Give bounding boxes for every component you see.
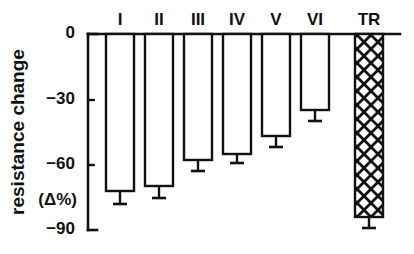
y-axis-tick-labels: 0 −30 −60 (Δ%) −90: [38, 23, 77, 238]
category-label-4: IV: [229, 10, 246, 29]
bar-5: [262, 34, 290, 136]
category-label-1: I: [118, 10, 123, 29]
category-label-7: TR: [358, 10, 381, 29]
y-tick-label-minus90: −90: [46, 219, 75, 238]
category-label-3: III: [191, 10, 205, 29]
bar-6: [301, 34, 329, 110]
y-tick-label-0: 0: [66, 23, 75, 42]
y-axis-title-group: resistance change: [7, 49, 28, 215]
bar-4: [223, 34, 251, 154]
y-tick-label-minus60: −60: [46, 154, 75, 173]
y-axis-title: resistance change: [7, 49, 28, 215]
bar-chart-svg: resistance change 0 −30 −60 (Δ%) −90: [0, 0, 414, 254]
bars-group: [106, 34, 383, 228]
bar-7-tr: [355, 34, 383, 217]
category-labels: I II III IV V VI TR: [118, 10, 381, 29]
bar-2: [145, 34, 173, 186]
y-axis-spine: [88, 34, 97, 230]
bar-1: [106, 34, 134, 191]
category-label-5: V: [270, 10, 282, 29]
y-tick-label-minus30: −30: [46, 89, 75, 108]
category-label-6: VI: [307, 10, 323, 29]
chart-figure: resistance change 0 −30 −60 (Δ%) −90: [0, 0, 414, 254]
category-label-2: II: [154, 10, 163, 29]
bar-3: [184, 34, 212, 160]
y-axis-unit-label: (Δ%): [38, 190, 77, 209]
